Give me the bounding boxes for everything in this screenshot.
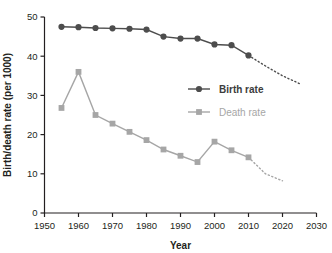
data-point-death-rate (127, 129, 133, 135)
data-point-birth-rate (245, 52, 251, 58)
data-point-death-rate (229, 147, 235, 153)
y-tick-label: 50 (27, 11, 38, 22)
y-tick-label: 0 (32, 207, 37, 218)
legend-label-birth-rate: Birth rate (219, 84, 264, 95)
x-tick-label: 1990 (170, 220, 191, 231)
data-point-birth-rate (126, 26, 132, 32)
data-point-death-rate (246, 154, 252, 160)
y-axis-title: Birth/death rate (per 1000) (2, 53, 13, 177)
x-tick-label: 1950 (34, 220, 55, 231)
x-tick-label: 2010 (238, 220, 259, 231)
legend-label-death-rate: Death rate (219, 107, 266, 118)
y-tick-label: 40 (27, 51, 38, 62)
data-point-birth-rate (75, 24, 81, 30)
x-tick-label: 1980 (136, 220, 157, 231)
data-point-birth-rate (58, 24, 64, 30)
data-point-death-rate (144, 137, 150, 143)
x-axis-title: Year (170, 240, 191, 251)
x-tick-label: 2030 (306, 220, 327, 231)
data-point-birth-rate (194, 35, 200, 41)
legend-marker-death-rate (196, 109, 202, 115)
data-point-birth-rate (92, 25, 98, 31)
series-line-birth-rate (62, 27, 249, 56)
data-point-birth-rate (143, 26, 149, 32)
birth-death-rate-chart: 0102030405019501960197019801990200020102… (0, 0, 332, 253)
x-tick-label: 2000 (204, 220, 225, 231)
series-projection-death-rate (249, 157, 283, 181)
data-point-death-rate (93, 112, 99, 118)
y-tick-label: 10 (27, 168, 38, 179)
data-point-death-rate (59, 105, 65, 111)
data-point-birth-rate (109, 25, 115, 31)
y-tick-label: 20 (27, 129, 38, 140)
data-point-death-rate (212, 139, 218, 145)
data-point-death-rate (195, 159, 201, 165)
series-projection-birth-rate (249, 55, 300, 83)
data-point-birth-rate (228, 42, 234, 48)
y-tick-label: 30 (27, 90, 38, 101)
x-tick-label: 2020 (272, 220, 293, 231)
legend-marker-birth-rate (196, 86, 202, 92)
data-point-death-rate (76, 69, 82, 75)
x-tick-label: 1960 (68, 220, 89, 231)
data-point-death-rate (110, 121, 116, 127)
data-point-death-rate (161, 147, 167, 153)
data-point-birth-rate (160, 34, 166, 40)
data-point-birth-rate (177, 35, 183, 41)
chart-canvas: 0102030405019501960197019801990200020102… (0, 0, 332, 253)
x-tick-label: 1970 (102, 220, 123, 231)
data-point-death-rate (178, 153, 184, 159)
data-point-birth-rate (211, 41, 217, 47)
